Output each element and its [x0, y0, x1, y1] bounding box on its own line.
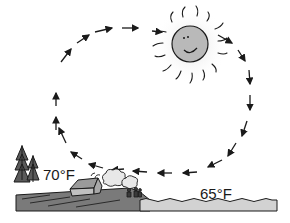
sea-temperature-label: 65°F	[200, 185, 232, 202]
sea-breeze-diagram: 70°F 65°F	[0, 0, 290, 223]
people-icon	[127, 187, 142, 197]
sun-icon	[153, 6, 229, 83]
trees-icon	[14, 145, 39, 182]
land-temperature-label: 70°F	[43, 166, 75, 183]
